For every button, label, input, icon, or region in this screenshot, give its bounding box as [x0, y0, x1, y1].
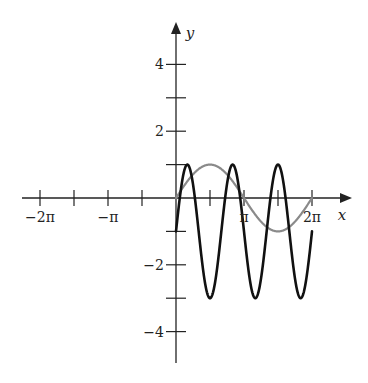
x-tick-label: −π	[98, 209, 119, 225]
x-axis-arrow-icon	[340, 193, 352, 203]
chart: −2π−ππ2π42−2−4xy	[0, 0, 368, 383]
y-tick-label: −4	[143, 324, 164, 340]
y-tick-label: 4	[155, 56, 164, 72]
y-axis-label: y	[185, 24, 195, 42]
series-curve-2	[176, 165, 312, 299]
x-tick-label: π	[239, 209, 248, 225]
series	[176, 165, 312, 299]
axes	[22, 22, 352, 363]
x-tick-label: 2π	[303, 209, 321, 225]
y-axis-arrow-icon	[171, 22, 181, 34]
y-tick-label: 2	[155, 123, 164, 139]
y-tick-label: −2	[143, 257, 164, 273]
x-tick-label: −2π	[25, 209, 55, 225]
x-axis-label: x	[338, 206, 347, 224]
